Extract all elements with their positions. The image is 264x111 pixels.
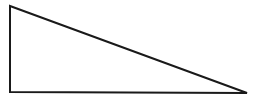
right-triangle-shape [10,6,247,93]
triangle-diagram [0,0,264,111]
